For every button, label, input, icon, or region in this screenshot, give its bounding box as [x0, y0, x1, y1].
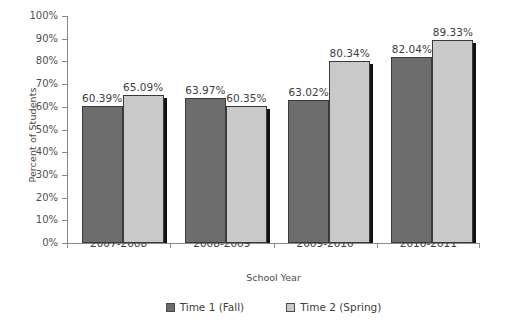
bar-time1-fall: 63.97% [185, 98, 226, 243]
y-axis-tick-label: 30% [36, 168, 58, 182]
y-axis-tick-label: 70% [36, 77, 58, 91]
bar-time2-spring: 60.35% [226, 106, 267, 243]
bar-chart-figure: Percent of Students 0%10%20%30%40%50%60%… [0, 0, 505, 336]
bar-drop-shadow [164, 98, 167, 243]
bar-value-label: 60.39% [82, 92, 122, 104]
bar-time2-spring: 65.09% [123, 95, 164, 243]
x-axis-title: School Year [67, 271, 480, 285]
bar-drop-shadow [370, 64, 373, 243]
y-axis-tick-label: 80% [36, 54, 58, 68]
y-axis-tick-label: 90% [36, 32, 58, 46]
y-axis-tick: 40% [62, 152, 67, 153]
bar-value-label: 60.35% [226, 92, 266, 104]
bar-body [226, 106, 267, 243]
legend-label: Time 1 (Fall) [180, 301, 245, 313]
legend-item-time2-spring[interactable]: Time 2 (Spring) [286, 301, 381, 313]
y-axis-tick-label: 50% [36, 123, 58, 137]
bar-time2-spring: 80.34% [329, 61, 370, 243]
bar-value-label: 65.09% [123, 81, 163, 93]
bar-value-label: 80.34% [330, 47, 370, 59]
legend-swatch-icon [166, 303, 175, 312]
y-axis-tick-label: 20% [36, 191, 58, 205]
y-axis-tick-label: 100% [29, 9, 58, 23]
y-axis-tick: 70% [62, 84, 67, 85]
y-axis-line [67, 16, 68, 243]
bar-value-label: 63.97% [185, 84, 225, 96]
legend-item-time1-fall[interactable]: Time 1 (Fall) [166, 301, 245, 313]
bar-value-label: 63.02% [289, 86, 329, 98]
bar-time2-spring: 89.33% [432, 40, 473, 243]
y-axis-tick-label: 40% [36, 145, 58, 159]
y-axis-tick: 50% [62, 130, 67, 131]
y-axis-tick-label: 10% [36, 213, 58, 227]
y-axis-tick-label: 0% [42, 236, 58, 250]
y-axis-tick: 80% [62, 61, 67, 62]
bar-body [329, 61, 370, 243]
bar-body [288, 100, 329, 243]
bar-time1-fall: 63.02% [288, 100, 329, 243]
y-axis-tick: 100% [62, 16, 67, 17]
bar-drop-shadow [473, 43, 476, 243]
y-axis-tick: 60% [62, 107, 67, 108]
bar-body [82, 106, 123, 243]
y-axis-tick: 10% [62, 220, 67, 221]
y-axis-tick: 20% [62, 198, 67, 199]
legend-swatch-icon [286, 303, 295, 312]
bar-body [185, 98, 226, 243]
bar-body [123, 95, 164, 243]
legend-label: Time 2 (Spring) [300, 301, 381, 313]
y-axis-tick: 30% [62, 175, 67, 176]
bar-time1-fall: 82.04% [391, 57, 432, 243]
y-axis-tick: 90% [62, 39, 67, 40]
plot-area: 0%10%20%30%40%50%60%70%80%90%100% 60.39%… [67, 16, 480, 243]
chart-legend: Time 1 (Fall)Time 2 (Spring) [67, 301, 480, 313]
bar-value-label: 82.04% [392, 43, 432, 55]
bar-time1-fall: 60.39% [82, 106, 123, 243]
bar-drop-shadow [267, 109, 270, 243]
bar-value-label: 89.33% [433, 26, 473, 38]
bar-body [432, 40, 473, 243]
bar-body [391, 57, 432, 243]
y-axis-tick-label: 60% [36, 100, 58, 114]
